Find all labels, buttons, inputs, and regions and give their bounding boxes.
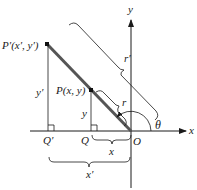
point-p-prime [45, 42, 49, 46]
point-p [89, 88, 93, 92]
right-angle-q [91, 125, 97, 131]
diagram-canvas [0, 0, 197, 190]
brace-x [92, 135, 131, 144]
label-q-prime: Q′ [43, 135, 53, 146]
label-p-prime: P′(x′, y′) [2, 40, 39, 51]
label-y-axis: y [128, 4, 133, 15]
label-x: x [109, 146, 114, 157]
label-q: Q [81, 135, 89, 146]
brace-x-prime [49, 157, 130, 167]
label-theta: θ [155, 119, 161, 131]
label-origin: O [133, 136, 141, 147]
label-x-axis: x [189, 125, 194, 136]
right-angle-q-prime [48, 125, 54, 131]
label-x-prime: x′ [86, 169, 93, 180]
label-r: r [122, 97, 126, 108]
label-r-prime: r′ [124, 53, 131, 64]
brace-r-prime [69, 23, 158, 120]
label-y: y [82, 108, 87, 119]
label-p: P(x, y) [56, 85, 85, 96]
label-y-prime: y′ [36, 87, 43, 98]
